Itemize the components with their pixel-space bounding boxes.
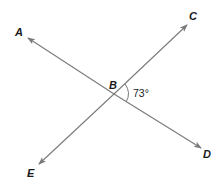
ray-be [39, 94, 114, 164]
angle-arc-cbd [125, 84, 129, 102]
angle-measure-label: 73° [133, 87, 149, 99]
geometry-diagram: A B C D E 73° [0, 0, 224, 182]
ray-bc [114, 25, 187, 94]
ray-bd [114, 94, 201, 148]
line-ec [39, 25, 187, 164]
point-label-a: A [14, 26, 23, 38]
point-label-d: D [203, 148, 211, 160]
point-label-b: B [109, 79, 117, 91]
point-label-c: C [189, 10, 198, 22]
ray-ba [28, 38, 114, 94]
point-label-e: E [27, 167, 35, 179]
